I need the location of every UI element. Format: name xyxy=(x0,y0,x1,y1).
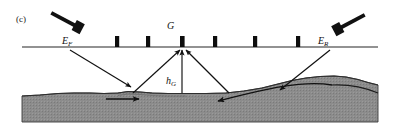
ground-body xyxy=(22,76,378,122)
forward-antenna-icon xyxy=(49,8,85,34)
subsurface-ground xyxy=(22,76,378,122)
station-marker xyxy=(213,36,217,47)
station-marker xyxy=(253,36,257,47)
station-marker xyxy=(146,36,150,47)
reverse-antenna-boom xyxy=(339,13,366,30)
station-markers xyxy=(115,36,300,47)
reverse-antenna-icon xyxy=(331,10,367,36)
figure-panel-c: (c) EF xyxy=(0,0,400,130)
scatter-point-label: G xyxy=(167,20,174,31)
panel-label: (c) xyxy=(16,14,26,24)
forward-antenna-head xyxy=(72,20,85,34)
height-label: hG xyxy=(166,75,176,88)
diagram-canvas: (c) EF xyxy=(0,0,400,130)
reverse-antenna-head xyxy=(331,22,344,36)
station-marker xyxy=(296,36,300,47)
forward-antenna-boom xyxy=(50,11,77,28)
station-marker xyxy=(180,36,185,47)
station-marker xyxy=(115,36,119,47)
scattered-ray-right xyxy=(186,50,229,93)
incident-ray-left xyxy=(70,50,131,87)
